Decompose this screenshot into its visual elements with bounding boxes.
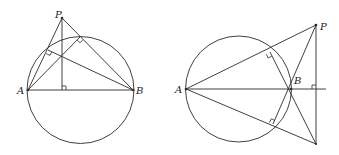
- right-right-angle-foot: [312, 85, 316, 89]
- left-label-a: A: [16, 85, 24, 96]
- right-point-b: [290, 88, 293, 91]
- left-label-b: B: [135, 85, 143, 96]
- right-line-bottom-through-b: [270, 52, 316, 144]
- right-line-a-bottom: [186, 89, 316, 144]
- left-right-angle-pa: [46, 52, 51, 56]
- right-figure: P A B: [174, 21, 327, 145]
- left-right-angle-pb: [77, 40, 83, 43]
- left-label-p: P: [54, 9, 62, 20]
- left-altitude-b: [48, 50, 133, 90]
- right-point-bottom: [315, 143, 317, 145]
- left-point-b: [132, 89, 135, 92]
- right-point-a: [185, 88, 188, 91]
- left-point-a: [27, 89, 30, 92]
- left-line-pb: [62, 18, 133, 90]
- right-point-p: [315, 24, 318, 27]
- left-altitude-a: [28, 37, 80, 90]
- right-label-b: B: [293, 75, 301, 86]
- left-figure: P A B: [16, 9, 143, 144]
- geometry-diagram: P A B P A B: [0, 0, 339, 155]
- right-label-p: P: [319, 21, 327, 32]
- left-right-angle-foot: [62, 86, 66, 90]
- right-label-a: A: [174, 84, 182, 95]
